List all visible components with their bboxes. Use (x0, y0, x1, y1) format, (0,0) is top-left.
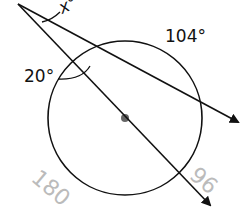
handwritten-96: 96 (186, 161, 224, 198)
secant-line-upper (18, 4, 238, 122)
label-104-degrees: 104° (165, 26, 206, 46)
label-20-degrees: 20° (24, 66, 54, 86)
handwritten-180: 180 (27, 165, 75, 211)
angle-arc-x (42, 12, 60, 22)
label-x-angle: x° (54, 0, 80, 18)
geometry-diagram: x° 20° 104° 180 96 (0, 0, 241, 213)
